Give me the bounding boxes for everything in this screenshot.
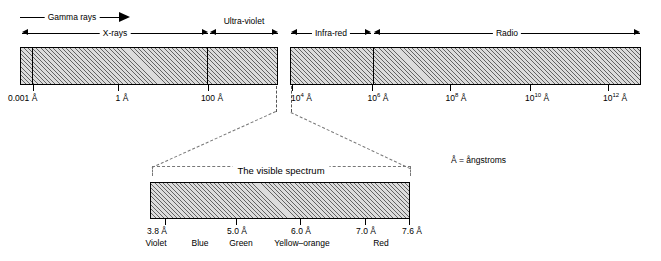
callout-guide-left	[276, 86, 277, 112]
tick-label-right-bar: 108 Å	[446, 93, 467, 103]
color-label-violet: Violet	[145, 238, 166, 248]
callout-guide-right	[291, 86, 292, 112]
band-arrow-radio: Radio	[374, 28, 640, 39]
arrowhead-right-icon	[634, 29, 640, 35]
band-label-x-rays: X-rays	[100, 28, 131, 39]
arrow-line	[210, 33, 278, 34]
tick-mark	[208, 85, 209, 91]
bar-divider-xray-uv	[207, 48, 208, 84]
tick-label-visible: 5.0 Å	[227, 226, 247, 236]
tick-mark	[450, 85, 451, 91]
callout-leader-right	[291, 112, 410, 169]
band-arrow-infra-red: Infra-red	[291, 28, 371, 39]
arrowhead-right-icon	[202, 29, 208, 35]
band-arrow-gamma-rays: Gamma rays	[20, 12, 130, 23]
tick-mark	[530, 85, 531, 91]
arrowhead-left-icon	[210, 29, 216, 35]
color-label-red: Red	[373, 238, 389, 248]
tick-mark	[608, 85, 609, 91]
visible-spectrum-bar	[150, 182, 410, 219]
tick-label-visible: 7.0 Å	[356, 226, 376, 236]
arrowhead-left-icon	[22, 29, 28, 35]
tick-label-left-bar: 0.001 Å	[8, 93, 37, 103]
right-spectrum-bar	[290, 47, 641, 85]
band-arrow-ultra-violet	[210, 28, 278, 39]
tick-mark	[165, 219, 166, 225]
bar-divider-ir-radio	[373, 48, 374, 84]
band-label-radio: Radio	[493, 28, 521, 39]
tick-mark	[300, 219, 301, 225]
angstrom-note: Å = ångstroms	[451, 155, 506, 165]
arrowhead-right-icon	[119, 12, 130, 22]
tick-mark	[292, 85, 293, 91]
tick-unit: Å	[380, 93, 388, 103]
tick-label-right-bar: 1010 Å	[525, 93, 549, 103]
left-spectrum-bar	[20, 47, 278, 85]
band-label-gamma-rays: Gamma rays	[45, 12, 100, 23]
bar-divider-gamma-xray	[32, 48, 33, 84]
color-label-blue: Blue	[191, 238, 208, 248]
arrowhead-left-icon	[374, 29, 380, 35]
tick-unit: Å	[304, 93, 312, 103]
callout-leader-left	[152, 111, 276, 168]
tick-mark	[118, 85, 119, 91]
tick-label-right-bar: 104 Å	[291, 93, 312, 103]
tick-label-right-bar: 106 Å	[368, 93, 389, 103]
arrowhead-right-icon	[272, 29, 278, 35]
tick-unit: Å	[619, 93, 627, 103]
tick-label-visible: 7.6 Å	[402, 226, 422, 236]
tick-mark	[409, 219, 410, 225]
arrowhead-left-icon	[291, 29, 297, 35]
band-label-infra-red: Infra-red	[312, 28, 350, 39]
tick-label-left-bar: 1 Å	[116, 93, 129, 103]
color-label-green: Green	[229, 238, 253, 248]
electromagnetic-spectrum-diagram: Gamma rays X-rays Ultra-violet Infra-red…	[0, 0, 661, 261]
tick-mark	[236, 219, 237, 225]
tick-label-visible: 3.8 Å	[147, 226, 167, 236]
tick-unit: Å	[458, 93, 466, 103]
visible-spectrum-title: The visible spectrum	[232, 165, 329, 177]
tick-mark	[372, 85, 373, 91]
tick-mark	[365, 219, 366, 225]
band-arrow-x-rays: X-rays	[22, 28, 208, 39]
color-label-yellow-orange: Yellow–orange	[274, 238, 329, 248]
tick-label-right-bar: 1012 Å	[603, 93, 627, 103]
tick-label-left-bar: 100 Å	[201, 93, 223, 103]
band-label-ultra-violet: Ultra-violet	[224, 16, 265, 26]
arrowhead-right-icon	[365, 29, 371, 35]
tick-label-visible: 6.0 Å	[291, 226, 311, 236]
tick-mark	[33, 85, 34, 91]
tick-unit: Å	[541, 93, 549, 103]
